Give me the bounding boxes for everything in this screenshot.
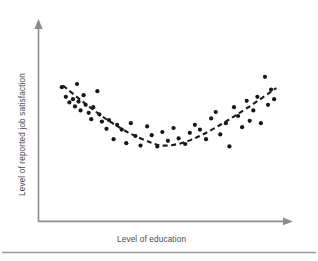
data-point bbox=[251, 108, 255, 112]
arrow-up-icon bbox=[34, 19, 42, 29]
data-point bbox=[150, 133, 154, 137]
chart-figure: Level of reported job satisfaction Level… bbox=[0, 0, 318, 261]
data-points-layer bbox=[60, 75, 277, 149]
data-point bbox=[78, 108, 82, 112]
data-point bbox=[104, 127, 108, 131]
data-point bbox=[177, 136, 181, 140]
data-point bbox=[227, 144, 231, 148]
data-point bbox=[129, 121, 133, 125]
data-point bbox=[193, 123, 197, 127]
data-point bbox=[75, 82, 79, 86]
data-point bbox=[204, 137, 208, 141]
arrow-right-icon bbox=[283, 218, 293, 226]
data-point bbox=[214, 110, 218, 114]
data-point bbox=[76, 100, 80, 104]
scatter-plot-canvas: Level of reported job satisfaction Level… bbox=[0, 0, 318, 261]
data-point bbox=[95, 89, 99, 93]
data-point bbox=[71, 97, 75, 101]
data-point bbox=[188, 131, 192, 135]
data-point bbox=[100, 120, 104, 124]
data-point bbox=[266, 103, 270, 107]
data-point bbox=[89, 117, 93, 121]
data-point bbox=[82, 93, 86, 97]
data-point bbox=[245, 99, 249, 103]
data-point bbox=[112, 137, 116, 141]
data-point bbox=[263, 75, 267, 79]
data-point bbox=[218, 132, 222, 136]
y-axis-label: Level of reported job satisfaction bbox=[18, 73, 27, 196]
data-point bbox=[171, 126, 175, 130]
y-axis-group bbox=[34, 19, 42, 222]
x-axis-group bbox=[39, 218, 294, 226]
data-point bbox=[73, 104, 77, 108]
data-point bbox=[269, 88, 273, 92]
data-point bbox=[67, 100, 71, 104]
trend-line-dashed bbox=[63, 86, 276, 146]
data-point bbox=[166, 139, 170, 143]
data-point bbox=[124, 141, 128, 145]
data-point bbox=[87, 111, 91, 115]
data-point bbox=[259, 121, 263, 125]
x-axis-label: Level of education bbox=[117, 235, 186, 244]
data-point bbox=[64, 95, 68, 99]
data-point bbox=[272, 97, 276, 101]
data-point bbox=[209, 116, 213, 120]
data-point bbox=[160, 130, 164, 134]
data-point bbox=[255, 95, 259, 99]
data-point bbox=[145, 124, 149, 128]
data-point bbox=[248, 119, 252, 123]
data-point bbox=[240, 125, 244, 129]
data-point bbox=[138, 144, 142, 148]
data-point bbox=[232, 105, 236, 109]
data-point bbox=[198, 128, 202, 132]
